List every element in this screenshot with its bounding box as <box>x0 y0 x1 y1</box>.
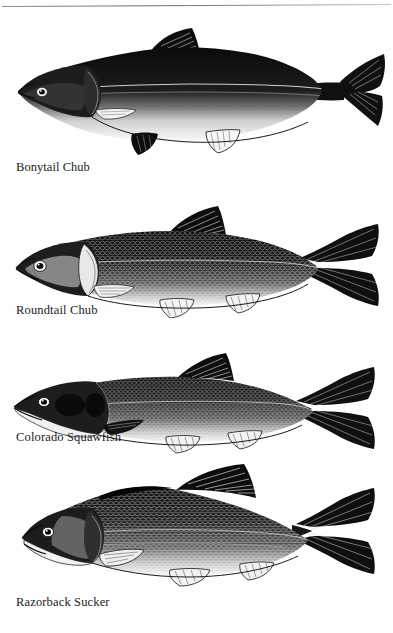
page-top-rule <box>2 4 391 7</box>
caption-bonytail-chub: Bonytail Chub <box>16 160 90 175</box>
illustration-page: Bonytail Chub <box>0 0 393 633</box>
caption-roundtail-chub: Roundtail Chub <box>16 303 98 318</box>
caption-razorback-sucker: Razorback Sucker <box>16 595 110 610</box>
fish-illustration-roundtail-chub <box>0 200 393 318</box>
fish-illustration-bonytail-chub <box>0 22 393 157</box>
caption-colorado-squawfish: Colorado Squawfish <box>16 430 121 445</box>
fish-illustration-razorback-sucker <box>0 462 393 587</box>
